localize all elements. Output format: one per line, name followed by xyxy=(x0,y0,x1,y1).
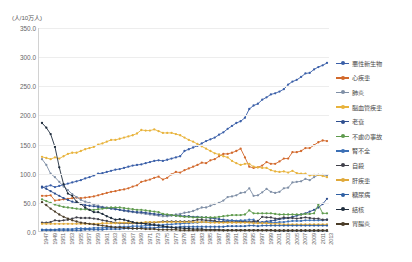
gridline xyxy=(39,86,329,87)
y-axis-unit-label: (人/10万人) xyxy=(12,13,42,22)
legend-item-心疾患[interactable]: 心疾患 xyxy=(336,71,412,86)
x-tick-label: 1977 xyxy=(173,233,179,245)
y-tick-label: 50.0 xyxy=(2,200,36,207)
legend-marker-icon xyxy=(336,74,349,82)
legend-marker-icon xyxy=(336,176,349,184)
legend-item-腎不全[interactable]: 腎不全 xyxy=(336,144,412,159)
x-tick-label: 1971 xyxy=(147,233,153,245)
y-tick-label: 200.0 xyxy=(2,112,36,119)
series-肺炎 xyxy=(41,158,328,217)
x-tick-label: 1961 xyxy=(104,233,110,245)
x-axis: 1947194919511953195519571959196119631965… xyxy=(38,233,329,262)
legend-label: 肝疾患 xyxy=(352,176,370,185)
x-tick-label: 2011 xyxy=(320,233,326,244)
legend-item-老衰[interactable]: 老衰 xyxy=(336,114,412,129)
x-tick-label: 1995 xyxy=(250,233,256,245)
x-tick-label: 1989 xyxy=(225,233,231,245)
gridline xyxy=(39,174,329,175)
plot-area xyxy=(38,28,329,232)
legend-marker-icon xyxy=(336,161,349,169)
legend-item-胃腸炎[interactable]: 胃腸炎 xyxy=(336,217,412,232)
mortality-rate-line-chart: (人/10万人) 350.0300.0250.0200.0150.0100.05… xyxy=(0,0,412,262)
series-心疾患 xyxy=(41,139,328,201)
legend-item-脳血管疾患[interactable]: 脳血管疾患 xyxy=(336,100,412,115)
legend-item-糖尿病[interactable]: 糖尿病 xyxy=(336,187,412,202)
legend-marker-icon xyxy=(336,59,349,67)
gridline xyxy=(39,57,329,58)
legend-label: 糖尿病 xyxy=(352,190,370,199)
legend-item-悪性新生物[interactable]: 悪性新生物 xyxy=(336,56,412,71)
y-tick-label: 0.0 xyxy=(2,229,36,236)
x-tick-label: 1951 xyxy=(60,233,66,245)
legend-label: 老衰 xyxy=(352,117,364,126)
x-tick-label: 1979 xyxy=(181,233,187,245)
x-tick-label: 1965 xyxy=(121,233,127,245)
legend-marker-icon xyxy=(336,103,349,111)
x-tick-label: 2003 xyxy=(285,233,291,245)
x-tick-label: 1949 xyxy=(52,233,58,245)
x-tick-label: 1993 xyxy=(242,233,248,245)
legend-label: 悪性新生物 xyxy=(352,59,382,68)
x-tick-label: 1999 xyxy=(268,233,274,245)
series-lines xyxy=(39,28,330,232)
x-tick-label: 1981 xyxy=(190,233,196,245)
x-tick-label: 2005 xyxy=(294,233,300,245)
x-tick-label: 2013 xyxy=(328,233,334,245)
x-tick-label: 2009 xyxy=(311,233,317,245)
legend-item-結核[interactable]: 結核 xyxy=(336,202,412,217)
x-tick-label: 1969 xyxy=(138,233,144,245)
legend-item-肝疾患[interactable]: 肝疾患 xyxy=(336,173,412,188)
y-tick-label: 250.0 xyxy=(2,83,36,90)
y-tick-label: 100.0 xyxy=(2,170,36,177)
legend-item-自殺[interactable]: 自殺 xyxy=(336,158,412,173)
x-tick-label: 1991 xyxy=(233,233,239,245)
x-tick-label: 1953 xyxy=(69,233,75,245)
x-tick-label: 1973 xyxy=(155,233,161,245)
legend-label: 肺炎 xyxy=(352,88,364,97)
x-tick-label: 1983 xyxy=(199,233,205,245)
x-tick-label: 1947 xyxy=(43,233,49,245)
legend-label: 不慮の事故 xyxy=(352,132,382,141)
y-tick-label: 300.0 xyxy=(2,54,36,61)
y-tick-label: 150.0 xyxy=(2,141,36,148)
legend-marker-icon xyxy=(336,147,349,155)
x-tick-label: 1957 xyxy=(86,233,92,245)
gridline xyxy=(39,145,329,146)
x-tick-label: 1955 xyxy=(78,233,84,245)
x-tick-label: 1975 xyxy=(164,233,170,245)
gridline xyxy=(39,28,329,29)
legend-item-不慮の事故[interactable]: 不慮の事故 xyxy=(336,129,412,144)
x-tick-label: 1997 xyxy=(259,233,265,245)
legend-label: 脳血管疾患 xyxy=(352,103,382,112)
x-tick-label: 1987 xyxy=(216,233,222,245)
legend: 悪性新生物心疾患肺炎脳血管疾患老衰不慮の事故腎不全自殺肝疾患糖尿病結核胃腸炎 xyxy=(336,56,412,231)
legend-marker-icon xyxy=(336,88,349,96)
legend-label: 胃腸炎 xyxy=(352,219,370,228)
y-axis: 350.0300.0250.0200.0150.0100.050.00.0 xyxy=(0,28,36,232)
x-tick-label: 1985 xyxy=(207,233,213,245)
legend-label: 自殺 xyxy=(352,161,364,170)
legend-marker-icon xyxy=(336,132,349,140)
x-tick-label: 1959 xyxy=(95,233,101,245)
x-tick-label: 2007 xyxy=(302,233,308,245)
legend-label: 結核 xyxy=(352,205,364,214)
legend-marker-icon xyxy=(336,118,349,126)
legend-item-肺炎[interactable]: 肺炎 xyxy=(336,85,412,100)
x-tick-label: 1967 xyxy=(130,233,136,245)
legend-label: 心疾患 xyxy=(352,73,370,82)
x-tick-label: 2001 xyxy=(276,233,282,245)
legend-label: 腎不全 xyxy=(352,146,370,155)
legend-marker-icon xyxy=(336,191,349,199)
gridline xyxy=(39,115,329,116)
y-tick-label: 350.0 xyxy=(2,25,36,32)
legend-marker-icon xyxy=(336,220,349,228)
gridline xyxy=(39,203,329,204)
x-tick-label: 1963 xyxy=(112,233,118,245)
legend-marker-icon xyxy=(336,205,349,213)
